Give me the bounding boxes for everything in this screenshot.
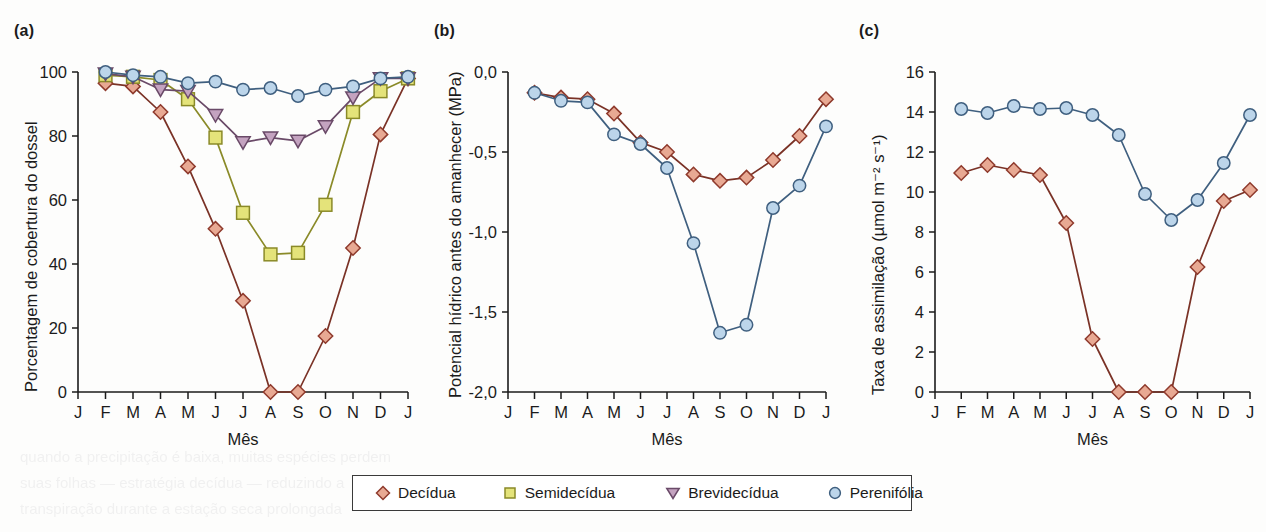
x-tick-label: F: [529, 403, 539, 421]
data-point-decídua: [1112, 385, 1126, 399]
x-tick-label: A: [582, 403, 593, 421]
data-point-perenifólia: [528, 87, 540, 99]
data-point-perenifólia: [608, 128, 620, 140]
data-point-semidecídua: [237, 206, 250, 219]
data-point-perenifólia: [209, 75, 221, 87]
x-tick-label: J: [1062, 403, 1070, 421]
legend-label-decidua: Decídua: [398, 484, 456, 502]
x-tick-label: M: [554, 403, 568, 421]
x-tick-label: J: [931, 403, 939, 421]
data-point-decídua: [373, 127, 387, 141]
x-tick-label: J: [239, 403, 247, 421]
panel-b: (b) Potencial hídrico antes do amanhecer…: [420, 0, 850, 470]
y-tick-label: 0: [58, 383, 67, 401]
x-tick-label: M: [607, 403, 621, 421]
x-tick-label: O: [1165, 403, 1178, 421]
data-point-decídua: [291, 385, 305, 399]
x-tick-label: J: [211, 403, 219, 421]
data-point-perenifólia: [1191, 194, 1203, 206]
data-point-perenifólia: [182, 77, 194, 89]
data-point-perenifólia: [1086, 109, 1098, 121]
chart-a: 020406080100JFMAMJJASONDJ: [0, 0, 434, 462]
x-tick-label: J: [1246, 403, 1254, 421]
data-point-perenifólia: [127, 69, 139, 81]
legend-label-semidecidua: Semidecídua: [525, 484, 615, 502]
data-point-perenifólia: [292, 90, 304, 102]
x-tick-label: M: [181, 403, 195, 421]
x-tick-label: M: [981, 403, 995, 421]
y-tick-label: 14: [906, 103, 924, 121]
data-point-decídua: [318, 329, 332, 343]
x-tick-label: J: [663, 403, 671, 421]
data-point-perenifólia: [154, 71, 166, 83]
diamond-marker-icon: [375, 485, 391, 501]
x-tick-label: J: [404, 403, 412, 421]
data-point-decídua: [1007, 163, 1021, 177]
y-tick-label: 10: [906, 183, 924, 201]
data-point-perenifólia: [402, 71, 414, 83]
data-point-perenifólia: [955, 103, 967, 115]
x-tick-label: J: [822, 403, 830, 421]
y-tick-label: 12: [906, 143, 924, 161]
data-point-perenifólia: [981, 107, 993, 119]
data-point-perenifólia: [767, 202, 779, 214]
data-point-perenifólia: [555, 95, 567, 107]
data-point-perenifólia: [1218, 157, 1230, 169]
data-point-decídua: [1217, 194, 1231, 208]
chart-b: 0,0-0,5-1,0-1,5-2,0JFMAMJJASONDJ: [420, 0, 852, 462]
circle-marker-icon: [827, 485, 843, 501]
data-point-semidecídua: [264, 248, 277, 261]
data-point-decídua: [1164, 385, 1178, 399]
series-line-perenifólia: [106, 72, 409, 96]
data-point-decídua: [739, 170, 753, 184]
x-tick-label: O: [319, 403, 332, 421]
data-point-perenifólia: [319, 83, 331, 95]
data-point-perenifólia: [237, 83, 249, 95]
data-point-brevidecídua: [291, 135, 305, 147]
x-tick-label: M: [1033, 403, 1047, 421]
data-point-decídua: [236, 294, 250, 308]
data-point-perenifólia: [374, 72, 386, 84]
x-tick-label: N: [1192, 403, 1204, 421]
x-tick-label: J: [74, 403, 82, 421]
data-point-decídua: [208, 222, 222, 236]
x-tick-label: N: [767, 403, 779, 421]
legend-label-brevidecidua: Brevidecídua: [688, 484, 778, 502]
data-point-perenifólia: [661, 162, 673, 174]
y-tick-label: 4: [915, 303, 924, 321]
legend: Decídua Semidecídua Brevidecídua Perenif…: [352, 475, 912, 511]
data-point-perenifólia: [1139, 188, 1151, 200]
chart-c: 0246810121416JFMAMJJASONDJ: [845, 0, 1266, 462]
data-point-decídua: [346, 241, 360, 255]
legend-item-brevidecidua: Brevidecídua: [665, 484, 778, 502]
series-line-decídua: [535, 93, 827, 181]
x-tick-label: A: [1113, 403, 1124, 421]
y-tick-label: -1,5: [469, 303, 497, 321]
y-tick-label: 0,0: [474, 63, 497, 81]
data-point-perenifólia: [687, 237, 699, 249]
data-point-brevidecídua: [236, 137, 250, 149]
data-point-decídua: [1190, 260, 1204, 274]
x-tick-label: D: [375, 403, 387, 421]
x-tick-label: A: [1008, 403, 1019, 421]
legend-item-semidecidua: Semidecídua: [502, 484, 615, 502]
data-point-semidecídua: [209, 131, 222, 144]
data-point-perenifólia: [1034, 103, 1046, 115]
y-tick-label: -1,0: [469, 223, 497, 241]
legend-label-perenifolia: Perenifólia: [850, 484, 923, 502]
data-point-decídua: [1085, 332, 1099, 346]
panel-a-plot: 020406080100JFMAMJJASONDJ: [0, 0, 434, 462]
y-tick-label: 6: [915, 263, 924, 281]
data-point-decídua: [263, 385, 277, 399]
data-point-decídua: [1059, 216, 1073, 230]
y-tick-label: 40: [49, 255, 67, 273]
y-tick-label: 60: [49, 191, 67, 209]
triangle-down-marker-icon: [665, 485, 681, 501]
x-tick-label: M: [126, 403, 140, 421]
x-tick-label: D: [1218, 403, 1230, 421]
data-point-perenifólia: [1244, 109, 1256, 121]
data-point-decídua: [1033, 168, 1047, 182]
data-point-perenifólia: [99, 66, 111, 78]
x-tick-label: A: [688, 403, 699, 421]
x-tick-label: S: [714, 403, 725, 421]
